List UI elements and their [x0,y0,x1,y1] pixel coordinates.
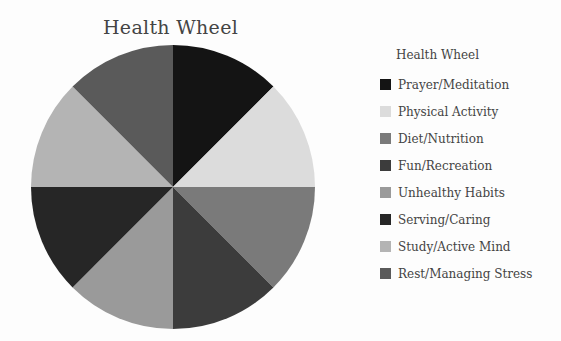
swatch-icon [380,133,391,144]
swatch-icon [380,187,391,198]
legend-label: Fun/Recreation [398,159,492,173]
legend-item: Unhealthy Habits [380,179,532,206]
legend-item: Study/Active Mind [380,233,532,260]
legend-item: Physical Activity [380,98,532,125]
legend-label: Diet/Nutrition [398,132,484,146]
legend-item: Fun/Recreation [380,152,532,179]
swatch-icon [380,79,391,90]
legend-item: Serving/Caring [380,206,532,233]
swatch-icon [380,241,391,252]
legend-label: Prayer/Meditation [398,78,509,92]
legend-title: Health Wheel [396,48,532,62]
legend-label: Physical Activity [398,105,498,119]
swatch-icon [380,106,391,117]
legend: Health Wheel Prayer/Meditation Physical … [380,48,532,287]
swatch-icon [380,268,391,279]
legend-item: Rest/Managing Stress [380,260,532,287]
swatch-icon [380,214,391,225]
legend-label: Rest/Managing Stress [398,267,532,281]
legend-item: Diet/Nutrition [380,125,532,152]
legend-item: Prayer/Meditation [380,71,532,98]
swatch-icon [380,160,391,171]
legend-label: Serving/Caring [398,213,490,227]
legend-label: Unhealthy Habits [398,186,505,200]
legend-label: Study/Active Mind [398,240,511,254]
